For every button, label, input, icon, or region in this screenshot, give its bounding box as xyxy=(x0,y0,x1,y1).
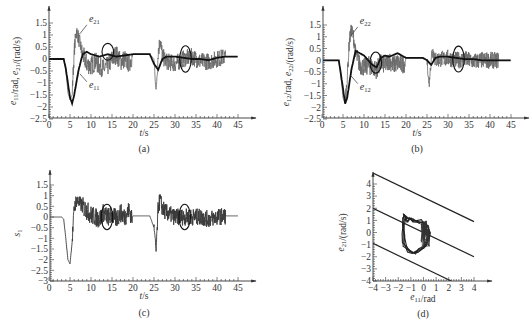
x-tick-label: 20 xyxy=(128,283,138,293)
y-axis: 1.510.50−0.5−1−1.5−2−2.5 xyxy=(30,6,53,124)
x-tick-label: 35 xyxy=(464,120,474,130)
x-tick-label: 25 xyxy=(149,283,159,293)
x-tick-label: −2 xyxy=(393,283,403,293)
series-layer xyxy=(373,173,474,281)
y-tick-label: 0.5 xyxy=(36,202,48,212)
series-annotation: e22 xyxy=(360,15,371,27)
y-axis: 1.510.50−0.5−1−1.5−2−2.5−3 xyxy=(31,170,54,286)
x-tick-label: 0 xyxy=(47,120,52,130)
y-tick-label: −1 xyxy=(361,240,371,250)
x-tick-label: 45 xyxy=(233,283,243,293)
y-tick-label: 3 xyxy=(366,191,371,201)
x-axis-label: t/s xyxy=(140,128,149,138)
series-e22 xyxy=(322,25,511,104)
y-tick-label: 0 xyxy=(316,56,321,66)
series-e21 xyxy=(49,28,238,100)
y-tick-label: −1 xyxy=(37,78,47,88)
y-tick-label: 1.5 xyxy=(309,20,321,30)
series-layer xyxy=(49,28,238,103)
x-tick-label: 25 xyxy=(149,120,159,130)
x-tick-label: 40 xyxy=(485,120,495,130)
x-tick-label: 10 xyxy=(359,120,369,130)
y-tick-label: 1 xyxy=(366,216,371,226)
y-tick-label: 0 xyxy=(42,54,47,64)
x-tick-label: 1 xyxy=(434,283,439,293)
y-axis: 43210−1−2−3−4 xyxy=(361,172,377,286)
y-tick-label: 1 xyxy=(316,32,321,42)
x-tick-label: 15 xyxy=(380,120,390,130)
y-tick-label: −0.5 xyxy=(31,223,48,233)
x-tick-label: 35 xyxy=(191,120,201,130)
y-tick-label: −0.5 xyxy=(304,67,321,77)
chart-d: −4−3−2−101234 43210−1−2−3−4 e11/rad e21/… xyxy=(336,172,492,320)
x-tick-label: 45 xyxy=(506,120,516,130)
y-tick-label: −1.5 xyxy=(31,244,48,254)
x-axis-label: e11/rad xyxy=(410,292,436,304)
y-tick-label: 2 xyxy=(366,204,371,214)
figure: 051015202530354045 1.510.50−0.5−1−1.5−2−… xyxy=(0,0,531,329)
y-tick-label: 0 xyxy=(43,212,48,222)
y-tick-label: −2 xyxy=(361,252,371,262)
series-e11 xyxy=(49,52,238,104)
x-tick-label: 30 xyxy=(443,120,453,130)
y-tick-label: 0 xyxy=(366,228,371,238)
y-tick-label: −0.5 xyxy=(30,66,47,76)
y-tick-label: −1.5 xyxy=(304,91,321,101)
x-tick-label: 45 xyxy=(233,120,243,130)
y-tick-label: 0.5 xyxy=(35,42,47,52)
y-tick-label: 1.5 xyxy=(36,180,48,190)
x-tick-label: 5 xyxy=(68,283,73,293)
panel-label: (d) xyxy=(417,308,429,320)
panel-label: (a) xyxy=(138,143,149,155)
x-tick-label: 40 xyxy=(212,283,222,293)
x-tick-label: 5 xyxy=(68,120,73,130)
chart-b: 051015202530354045 1.510.50−0.5−1−1.5−2−… xyxy=(281,6,529,155)
x-tick-label: 3 xyxy=(459,283,464,293)
x-tick-label: 20 xyxy=(128,120,138,130)
y-axis-label: e11/rad, e21/(rad/s) xyxy=(8,37,23,105)
y-tick-label: −1 xyxy=(311,79,321,89)
y-axis-label: e21/(rad/s) xyxy=(336,213,349,251)
series-layer xyxy=(49,194,238,264)
y-tick-label: −3 xyxy=(38,276,48,286)
x-axis-label: t/s xyxy=(413,128,422,138)
series-upper-boundary xyxy=(373,173,474,222)
panel-label: (b) xyxy=(411,143,423,155)
x-tick-label: 4 xyxy=(472,283,477,293)
x-tick-label: 40 xyxy=(212,120,222,130)
y-tick-label: −1 xyxy=(38,234,48,244)
x-tick-label: 0 xyxy=(421,283,426,293)
y-axis-label: s1 xyxy=(12,230,23,237)
y-tick-label: −2.5 xyxy=(31,266,48,276)
y-tick-label: −2 xyxy=(311,103,321,113)
y-tick-label: 1 xyxy=(43,191,48,201)
y-tick-label: −2.5 xyxy=(30,114,47,124)
x-tick-label: 15 xyxy=(107,283,117,293)
x-tick-label: 30 xyxy=(170,120,180,130)
y-tick-label: 4 xyxy=(366,179,371,189)
y-tick-label: 1.5 xyxy=(35,18,47,28)
x-tick-label: 10 xyxy=(86,283,96,293)
y-tick-label: 1 xyxy=(42,30,47,40)
x-tick-label: 35 xyxy=(191,283,201,293)
x-tick-label: 25 xyxy=(422,120,432,130)
x-tick-label: 15 xyxy=(107,120,117,130)
x-tick-label: −3 xyxy=(381,283,391,293)
series-annotation: e21 xyxy=(89,13,100,25)
chart-c: 051015202530354045 1.510.50−0.5−1−1.5−2−… xyxy=(12,170,256,319)
x-axis: −4−3−2−101234 xyxy=(368,277,492,293)
y-tick-label: −1.5 xyxy=(30,90,47,100)
x-tick-label: 5 xyxy=(341,120,346,130)
x-axis: 051015202530354045 xyxy=(320,114,529,130)
x-tick-label: 30 xyxy=(170,283,180,293)
series-s1 xyxy=(49,194,238,264)
y-tick-label: −2.5 xyxy=(304,114,321,124)
x-tick-label: 2 xyxy=(446,283,451,293)
y-axis: 1.510.50−0.5−1−1.5−2−2.5 xyxy=(304,6,327,124)
y-tick-label: −2 xyxy=(38,255,48,265)
y-tick-label: −3 xyxy=(361,264,371,274)
x-axis: 051015202530354045 xyxy=(47,277,256,293)
panel-label: (c) xyxy=(138,307,149,319)
x-axis: 051015202530354045 xyxy=(47,114,256,130)
y-tick-label: 0.5 xyxy=(309,44,321,54)
